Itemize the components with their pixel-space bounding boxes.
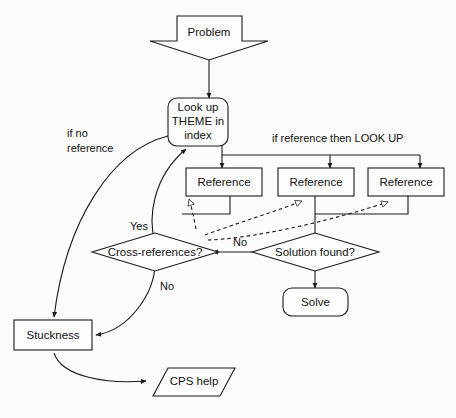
node-reference-3[interactable]: Reference: [368, 168, 444, 196]
node-reference-1-label: Reference: [197, 176, 250, 188]
edge-crossref-dashed-right: [208, 202, 388, 240]
label-no-solution-found: No: [233, 236, 247, 248]
node-lookup-theme-label-line3: index: [184, 129, 212, 141]
label-yes-cross-references: Yes: [130, 220, 148, 232]
label-no-cross-references: No: [160, 280, 174, 292]
node-lookup-theme-label-line1: Look up: [178, 101, 219, 113]
node-solve[interactable]: Solve: [283, 288, 348, 316]
node-cross-references-label: Cross-references?: [108, 246, 203, 258]
label-if-no-reference-line2: reference: [67, 142, 113, 154]
label-if-reference-then-lookup: if reference then LOOK UP: [272, 132, 403, 144]
edge-lookup-no-reference-to-stuckness: [54, 136, 168, 317]
edge-reference1-down: [182, 196, 230, 214]
node-cps-help[interactable]: CPS help: [153, 368, 235, 396]
node-problem[interactable]: Problem: [150, 16, 268, 60]
node-reference-2[interactable]: Reference: [278, 168, 354, 196]
node-reference-3-label: Reference: [379, 176, 432, 188]
edge-crossreferences-yes-to-lookup: [152, 149, 186, 243]
node-solve-label: Solve: [301, 296, 330, 308]
node-solution-found-label: Solution found?: [275, 246, 355, 258]
flowchart-canvas: Problem Look up THEME in index Reference…: [0, 0, 456, 418]
node-solution-found[interactable]: Solution found?: [252, 233, 379, 271]
edge-reference3-down: [315, 196, 408, 214]
node-stuckness-label: Stuckness: [26, 329, 79, 341]
node-cps-help-label: CPS help: [170, 375, 219, 387]
edge-stuckness-to-cpshelp: [54, 353, 146, 382]
node-reference-1[interactable]: Reference: [186, 168, 262, 196]
node-lookup-theme[interactable]: Look up THEME in index: [168, 98, 228, 146]
label-if-no-reference: if no reference: [67, 127, 113, 154]
edge-crossref-dashed-middle: [205, 201, 302, 235]
node-stuckness[interactable]: Stuckness: [14, 320, 92, 350]
node-reference-2-label: Reference: [289, 176, 342, 188]
node-problem-label: Problem: [188, 26, 231, 38]
node-lookup-theme-label-line2: THEME in: [172, 115, 224, 127]
node-cross-references[interactable]: Cross-references?: [92, 233, 218, 271]
edge-lookup-to-references: [222, 146, 420, 168]
label-if-no-reference-line1: if no: [67, 127, 88, 139]
edge-crossreferences-no-to-stuckness: [96, 263, 155, 335]
